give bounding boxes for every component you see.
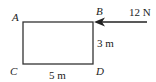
vertex-label-a: A	[11, 11, 19, 23]
force-magnitude-label: 12 N	[129, 6, 151, 18]
height-dimension-label: 3 m	[97, 37, 114, 49]
vertex-label-b: B	[96, 5, 103, 17]
rectangle-body	[23, 22, 93, 64]
force-diagram: A B C D 12 N 3 m 5 m	[0, 0, 156, 82]
width-dimension-label: 5 m	[49, 69, 66, 81]
vertex-label-c: C	[10, 65, 18, 77]
vertex-label-d: D	[95, 65, 104, 77]
